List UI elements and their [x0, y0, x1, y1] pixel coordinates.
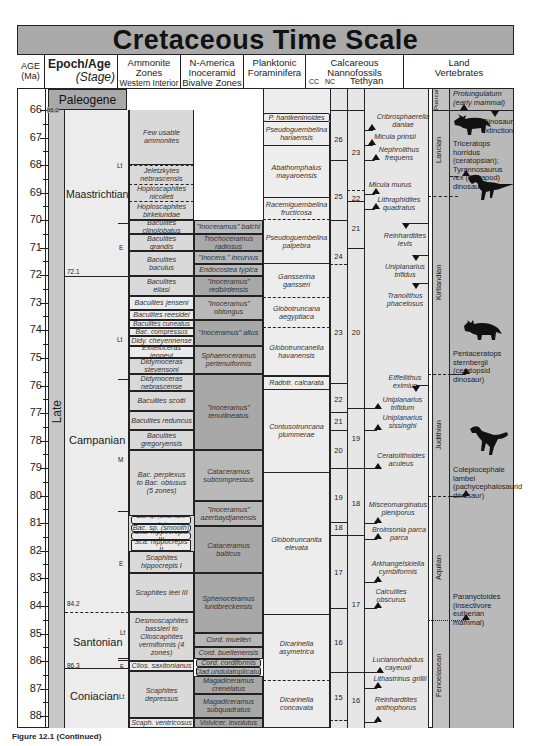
- ammonite-zone: Baculites reduncus: [129, 411, 194, 430]
- nanno-datum: Lithraphidites quadratus: [374, 196, 424, 212]
- ammonite-zone: Few usable ammonites: [129, 110, 194, 165]
- nanno-datum: Tranolithus phacelosus: [380, 292, 430, 308]
- inoceramid-zone: "Inoceramus" altus: [194, 320, 263, 346]
- inoceramid-zone: Cataceramus balticus: [194, 526, 263, 573]
- inoceramid-zone: Sphenoceramus lundbreckensis: [194, 573, 263, 633]
- stage-coniacian: Coniacian: [70, 690, 119, 702]
- vertebrate-event: Paranyctoides (insectivore eutherian mam…: [453, 593, 513, 627]
- cc-zone: 17: [330, 568, 347, 577]
- paleogene-cell: Paleogene: [48, 89, 127, 110]
- cc-zone: 15: [330, 693, 347, 702]
- stage-campanian: Campanian: [69, 434, 125, 446]
- nanno-datum: Eiffellithus eximius: [380, 374, 430, 390]
- nanno-datum: Arkhangelskiella cymbiformis: [366, 560, 430, 576]
- vertebrate-event: Pentaceratops sternbergii (ceratopsid di…: [453, 350, 513, 384]
- pentaceratops-icon: [462, 320, 502, 342]
- nc-zone: 17: [347, 600, 365, 609]
- nanno-datum: Uniplanarius trifidum: [375, 396, 430, 412]
- cc-zone: 16: [330, 638, 347, 647]
- foram-zone: Gansserina gansseri: [263, 264, 330, 298]
- ammonite-zone: Baculites eliasi: [129, 276, 194, 296]
- cc-zone: 21: [330, 417, 347, 426]
- foram-zone: Pseudoguembelina palpebra: [263, 220, 330, 264]
- substage-lt: Lt: [117, 336, 122, 343]
- ammonite-zone: Baculites scotti: [129, 391, 194, 411]
- ammonite-zone: Scaphites depressus: [129, 671, 194, 718]
- boundary-84-2: 84.2: [67, 600, 80, 607]
- ammonite-zone: Scaph. ventricosus: [129, 718, 194, 728]
- ammonite-zone: Bac. sp. (smooth): [131, 524, 191, 532]
- figure-caption: Figure 12.1 (Continued): [12, 732, 101, 741]
- cc-zone: 23: [330, 328, 347, 337]
- inoceramid-zone: "Inoceramus" oblongus: [194, 296, 263, 320]
- inoceramid-zone: Cord. bueltenensis: [194, 647, 263, 659]
- ammonite-zone: Bac. sp. (weak flank ribs): [131, 516, 191, 524]
- inoceramid-zone: Volvicer. involutus: [194, 718, 263, 728]
- boundary-72-1: 72.1: [67, 268, 80, 275]
- substage-e: E: [119, 244, 123, 251]
- ammonite-zone: Exiteloceras jenneyi: [129, 346, 194, 358]
- ammonite-zone: Jeletzkytes nebrascensis: [129, 165, 194, 184]
- ammonite-zone: Baculites reesidei: [129, 310, 194, 320]
- ammonite-zone: Didy. cheyennense: [129, 336, 194, 346]
- substage-e: E: [119, 560, 123, 567]
- substage-lt: Lt: [119, 693, 124, 700]
- stage-maastrichtian: Maastrichtian: [66, 188, 128, 200]
- inoceramid-zone: Sphaeroceramus pertenuiformis: [194, 346, 263, 374]
- header-inoceramid: N-America Inoceramid Bivalve Zones: [181, 55, 244, 89]
- header-epoch: Epoch/Age (Stage): [45, 55, 118, 89]
- substage-lt: Lt: [117, 162, 122, 169]
- cc-column: [330, 89, 347, 728]
- cc-zone: 19: [330, 493, 347, 502]
- substage-e: E: [120, 663, 124, 669]
- header-foram: Planktonic Foraminifera: [244, 55, 306, 89]
- ammonite-zone: Baculites grandis: [129, 234, 194, 251]
- header-vertebrates: Land Vertebrates: [404, 55, 514, 89]
- cc-zone: 25: [330, 192, 347, 201]
- nanno-datum: Nephrolithus frequens: [374, 146, 424, 162]
- boundary-66: 66.0: [47, 107, 59, 113]
- ammonite-zone: Baculites clinolobatus: [129, 220, 194, 234]
- foram-zone: Globotruncanella havanensis: [263, 328, 330, 376]
- stage-santonian: Santonian: [73, 636, 123, 648]
- foram-zone: Globotruncana aegyptiaca: [263, 298, 330, 328]
- nanno-datum: Micula prinsii: [370, 133, 420, 141]
- nanno-datum: Uniplanarius trifidus: [380, 263, 430, 279]
- foram-zone: Dicarinella asymetrica: [263, 615, 330, 681]
- nalma-age: Aquilan: [434, 540, 448, 595]
- ammonite-zone: Didymoceras nebrascense: [129, 374, 194, 391]
- nc-zone: 16: [347, 696, 365, 705]
- last-occurrence-icon: [412, 386, 420, 392]
- header-nanno: Calcareous Nannofossils CC NC Tethyan: [306, 55, 404, 89]
- nc-zone: 19: [347, 434, 365, 443]
- cc-zone: 22: [330, 395, 347, 404]
- header-age: AGE (Ma): [17, 55, 45, 89]
- ammonite-zone: Scaphites hippocrepis I: [129, 551, 194, 573]
- ammonite-zone: Baculites baculus: [129, 251, 194, 276]
- ammonite-zone: Baculites gregoryensis: [129, 430, 194, 450]
- header-ammonite: Ammonite Zones Western Interior: [118, 55, 181, 89]
- inoceramid-zone: Magadiceramus subquadratus: [194, 694, 263, 718]
- inoceramid-zone: "Inoceramus" tenuilineatus: [194, 374, 263, 450]
- pachycephalosaur-icon: [470, 425, 510, 457]
- nanno-datum: Reinhardtites levis: [380, 232, 430, 248]
- foram-zone: Radotr. calcarata: [263, 376, 330, 390]
- foram-zone: Abathomphalus mayaroensis: [263, 146, 330, 198]
- ammonite-zone: Desmoscaphites bassleri to Clioscaphites…: [129, 612, 194, 661]
- nalma-age: Lancian: [434, 120, 448, 180]
- nc-zone: 20: [347, 328, 365, 337]
- cc-zone: 20: [330, 446, 347, 455]
- nc-zone: 23: [347, 148, 365, 157]
- foram-zone: Globotruncanita elevata: [263, 473, 330, 615]
- ammonite-zone: Sca. hippocrepis II: [131, 540, 191, 551]
- ammonite-zone: Bac. compressus: [129, 328, 194, 336]
- inoceramid-zone: Magadiceramus crenelatus: [194, 676, 263, 694]
- ammonite-zone: Scaphites leei III: [129, 573, 194, 612]
- ammonite-zone: Bac. perplexus to Bac. obtusus (5 zones): [129, 450, 194, 516]
- foram-zone: Contusotruncana plummerae: [263, 390, 330, 473]
- ammonite-zone: Didymoceras stevensoni: [129, 358, 194, 374]
- epoch-late: Late: [50, 400, 64, 423]
- nanno-datum: Cribrosphaerella daniae: [374, 113, 432, 129]
- foram-zone: P. hantkeninoides: [263, 113, 330, 122]
- ammonite-zone: Clios. saxitonianus: [129, 661, 194, 671]
